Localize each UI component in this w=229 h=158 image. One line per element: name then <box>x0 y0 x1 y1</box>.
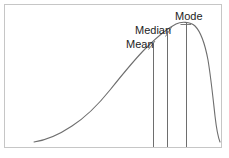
skewed-distribution-figure: Mean Median Mode <box>0 0 229 158</box>
median-label: Median <box>135 25 171 36</box>
mean-label: Mean <box>126 39 154 50</box>
plot-canvas <box>0 0 229 158</box>
mode-label: Mode <box>175 11 203 22</box>
